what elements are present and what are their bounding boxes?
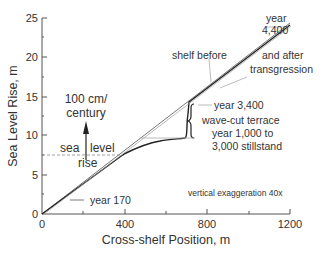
svg-text:transgression: transgression bbox=[250, 63, 313, 75]
x-tick-labels: 0 400 800 1200 bbox=[39, 218, 302, 230]
rise-arrow-head-icon bbox=[83, 121, 89, 134]
svg-text:century: century bbox=[66, 106, 105, 120]
svg-text:rise: rise bbox=[78, 156, 98, 170]
svg-text:1200: 1200 bbox=[278, 218, 302, 230]
svg-text:year: year bbox=[266, 12, 287, 24]
svg-text:4,400: 4,400 bbox=[262, 24, 288, 36]
y-axis bbox=[42, 18, 47, 214]
svg-text:800: 800 bbox=[198, 218, 216, 230]
svg-text:25: 25 bbox=[26, 12, 38, 24]
svg-text:0: 0 bbox=[39, 218, 45, 230]
svg-text:10: 10 bbox=[26, 129, 38, 141]
x-axis bbox=[42, 209, 290, 214]
svg-text:20: 20 bbox=[26, 51, 38, 63]
svg-text:wave-cut terrace: wave-cut terrace bbox=[201, 114, 280, 126]
x-axis-label: Cross-shelf Position, m bbox=[102, 233, 231, 247]
annotations: year 4,400 shelf before and after transg… bbox=[60, 12, 313, 206]
svg-text:400: 400 bbox=[116, 218, 134, 230]
svg-text:100 cm/: 100 cm/ bbox=[65, 92, 108, 106]
svg-text:year 170: year 170 bbox=[90, 194, 131, 206]
chart: 25 20 15 10 5 0 0 400 800 1200 Cross-she… bbox=[0, 0, 325, 253]
svg-text:sea: sea bbox=[60, 141, 80, 155]
svg-text:year 3,400: year 3,400 bbox=[214, 99, 264, 111]
svg-text:0: 0 bbox=[32, 208, 38, 220]
svg-text:15: 15 bbox=[26, 91, 38, 103]
svg-text:3,000 stillstand: 3,000 stillstand bbox=[212, 140, 282, 152]
y-axis-label: Sea Level Rise, m bbox=[6, 65, 20, 166]
svg-text:5: 5 bbox=[32, 169, 38, 181]
svg-text:and after: and after bbox=[262, 49, 304, 61]
svg-text:level: level bbox=[90, 141, 115, 155]
svg-text:shelf before: shelf before bbox=[172, 49, 227, 61]
transgression-leader bbox=[220, 77, 247, 88]
svg-text:year 1,000 to: year 1,000 to bbox=[212, 127, 273, 139]
svg-text:vertical exaggeration 40x: vertical exaggeration 40x bbox=[188, 188, 283, 198]
y-tick-labels: 25 20 15 10 5 0 bbox=[26, 12, 38, 220]
shelf-before-leader bbox=[209, 59, 211, 82]
